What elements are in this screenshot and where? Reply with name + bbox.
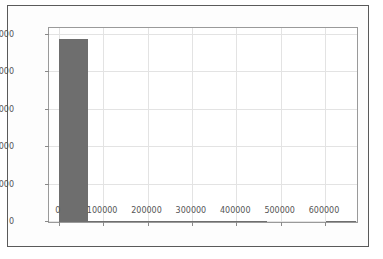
histogram-bar <box>59 39 89 222</box>
y-tick-label: 3000 <box>0 104 14 113</box>
x-tick-mark <box>236 222 237 226</box>
x-tick-label: 300000 <box>176 206 207 215</box>
x-tick-label: 400000 <box>220 206 251 215</box>
y-tick-mark <box>45 34 49 35</box>
x-tick-mark <box>281 222 282 226</box>
x-tick-label: 500000 <box>264 206 295 215</box>
y-tick-mark <box>45 109 49 110</box>
x-tick-mark <box>103 222 104 226</box>
y-tick-mark <box>45 146 49 147</box>
histogram-bar <box>237 221 267 222</box>
y-tick-label: 5000 <box>0 29 14 38</box>
x-tick-mark <box>325 222 326 226</box>
x-tick-mark <box>59 222 60 226</box>
y-tick-label: 2000 <box>0 142 14 151</box>
y-tick-mark <box>45 221 49 222</box>
histogram-bar <box>326 221 356 222</box>
x-tick-mark <box>148 222 149 226</box>
histogram-bar <box>118 221 148 222</box>
y-tick-label: 4000 <box>0 67 14 76</box>
x-tick-label: 200000 <box>131 206 162 215</box>
plot-area <box>48 27 358 223</box>
histogram-bar <box>148 221 178 222</box>
x-tick-label: 0 <box>55 206 60 215</box>
y-tick-label: 0 <box>9 217 14 226</box>
x-tick-mark <box>192 222 193 226</box>
y-tick-mark <box>45 71 49 72</box>
y-tick-label: 1000 <box>0 179 14 188</box>
x-tick-label: 600000 <box>309 206 340 215</box>
histogram-bars <box>49 28 357 222</box>
y-tick-mark <box>45 184 49 185</box>
figure-frame: 0100000200000300000400000500000600000 01… <box>7 5 369 247</box>
figure-canvas: 0100000200000300000400000500000600000 01… <box>8 6 368 246</box>
histogram-bar <box>207 221 237 222</box>
x-tick-label: 100000 <box>87 206 118 215</box>
